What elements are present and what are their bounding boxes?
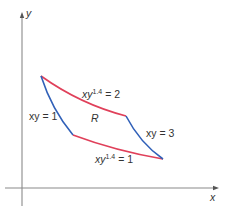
region-label: R <box>91 113 99 124</box>
x-axis-label: x <box>210 192 215 203</box>
x-axis-arrow-icon <box>213 186 219 190</box>
curve-bottom-label-rhs: = 1 <box>115 153 133 165</box>
curve-bottom-label-exponent: 1.4 <box>106 153 116 160</box>
curve-top-label-base: xy <box>82 88 93 100</box>
curve-top-label-exponent: 1.4 <box>93 88 103 95</box>
y-axis-label: y <box>26 8 31 19</box>
curve-top-label-rhs: = 2 <box>102 88 120 100</box>
y-axis-arrow-icon <box>20 12 24 18</box>
region-diagram <box>0 0 228 218</box>
curve-right-label: xy = 3 <box>146 128 174 139</box>
curve-top-label: xy1.4 = 2 <box>82 88 120 100</box>
curve-bottom-label: xy1.4 = 1 <box>95 153 133 165</box>
curve-left <box>41 76 73 135</box>
curve-left-label: xy = 1 <box>29 111 57 122</box>
curve-bottom-label-base: xy <box>95 153 106 165</box>
